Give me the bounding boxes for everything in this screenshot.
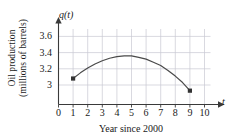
- y-tick-label: 3.2: [32, 64, 52, 74]
- data-point-marker: [188, 89, 192, 93]
- x-tick-label: 1: [66, 108, 80, 118]
- x-tick-label: 2: [81, 108, 95, 118]
- x-tick-label: 5: [125, 108, 139, 118]
- x-tick-label: 7: [154, 108, 168, 118]
- oil-production-chart: Oil production (millions of barrels) q(t…: [0, 0, 244, 140]
- x-tick-label: 3: [95, 108, 109, 118]
- x-tick-label: 9: [183, 108, 197, 118]
- gridlines: [59, 29, 211, 105]
- y-axis-title-line-2: (millions of barrels): [18, 0, 29, 117]
- y-axis-variable-label: q(t): [59, 10, 73, 20]
- x-tick-label: 4: [110, 108, 124, 118]
- x-axis-title: Year since 2000: [58, 123, 204, 134]
- axes: [55, 17, 224, 108]
- y-tick-label: 3.6: [32, 31, 52, 41]
- x-tick-label: 10: [198, 108, 212, 118]
- y-axis-title: Oil production (millions of barrels): [7, 0, 29, 117]
- y-axis-title-line-1: Oil production: [7, 29, 17, 86]
- data-point-marker: [71, 76, 75, 80]
- x-axis-variable-label: t: [222, 97, 225, 107]
- x-tick-label: 0: [52, 108, 66, 118]
- x-tick-label: 6: [139, 108, 153, 118]
- x-tick-label: 8: [168, 108, 182, 118]
- y-tick-label: 3: [32, 80, 52, 90]
- y-tick-label: 3.4: [32, 48, 52, 58]
